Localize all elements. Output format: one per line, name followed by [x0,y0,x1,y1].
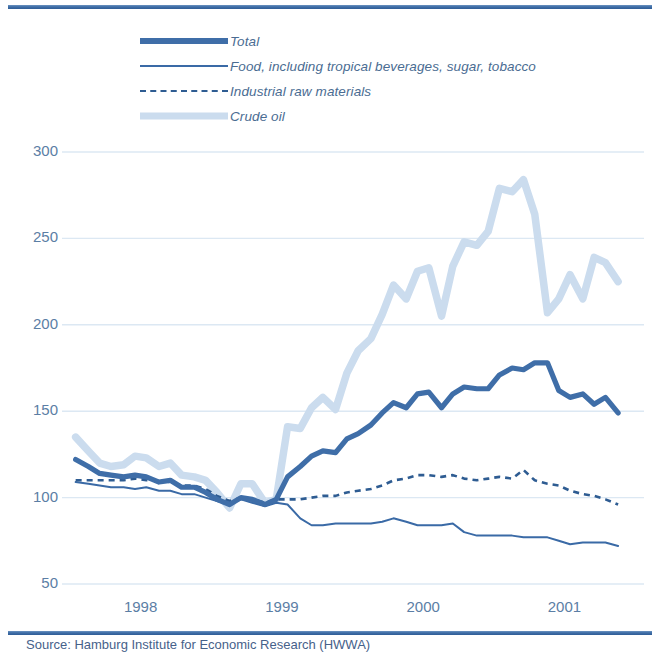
bottom-rule [8,631,652,635]
y-tick-label-250: 250 [12,228,58,245]
x-tick-label-1999: 1999 [252,598,312,615]
y-tick-label-150: 150 [12,401,58,418]
y-tick-label-50: 50 [12,574,58,591]
series-line-crude_oil [76,180,618,508]
y-tick-label-100: 100 [12,488,58,505]
y-tick-label-300: 300 [12,142,58,159]
source-note: Source: Hamburg Institute for Economic R… [26,637,370,652]
x-tick-label-1998: 1998 [111,598,171,615]
chart-series-layer [76,180,618,546]
x-tick-label-2001: 2001 [534,598,594,615]
y-tick-label-200: 200 [12,315,58,332]
x-tick-label-2000: 2000 [393,598,453,615]
series-line-industrial [76,470,618,505]
